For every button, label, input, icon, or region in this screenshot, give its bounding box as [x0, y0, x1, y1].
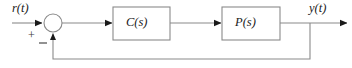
controller-block-label: C(s) — [126, 16, 148, 29]
diagram-canvas — [0, 0, 352, 68]
output-signal-label: y(t) — [309, 2, 326, 15]
plant-block-label: P(s) — [235, 16, 256, 29]
block-diagram: r(t) y(t) C(s) P(s) + — [0, 0, 352, 68]
summing-junction — [44, 14, 62, 32]
input-signal-label: r(t) — [12, 2, 29, 15]
plus-sign-label: + — [28, 29, 35, 41]
